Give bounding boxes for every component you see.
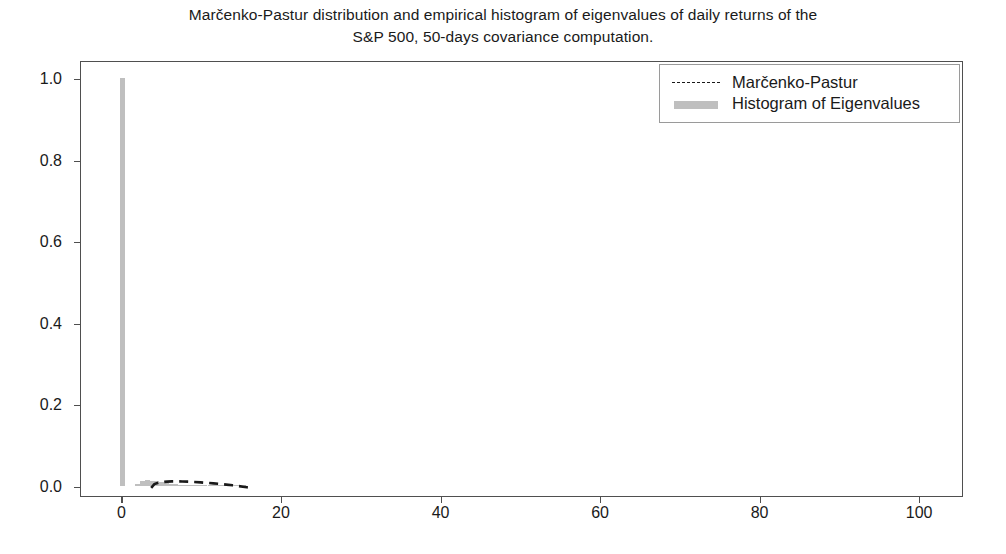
x-tick-label: 60 bbox=[570, 504, 630, 522]
x-tick-label: 20 bbox=[251, 504, 311, 522]
x-tick-mark bbox=[281, 497, 282, 503]
x-tick-mark bbox=[441, 497, 442, 503]
y-tick-label: 0.0 bbox=[10, 478, 62, 496]
filled-patch-icon bbox=[670, 97, 722, 111]
y-tick-label: 0.6 bbox=[10, 233, 62, 251]
y-tick-label: 0.2 bbox=[10, 396, 62, 414]
dashed-line-icon bbox=[670, 76, 722, 90]
legend-item-marcenko-pastur: Marčenko-Pastur bbox=[670, 72, 949, 93]
chart-title-line-1: Marčenko-Pastur distribution and empiric… bbox=[0, 4, 1006, 26]
marcenko-pastur-curve bbox=[81, 62, 962, 496]
chart-legend: Marčenko-Pastur Histogram of Eigenvalues bbox=[659, 64, 960, 123]
x-tick-label: 100 bbox=[889, 504, 949, 522]
x-tick-label: 80 bbox=[730, 504, 790, 522]
legend-label-histogram: Histogram of Eigenvalues bbox=[732, 94, 920, 113]
x-tick-label: 40 bbox=[411, 504, 471, 522]
plot-area bbox=[81, 62, 962, 496]
plot-axes bbox=[80, 61, 963, 497]
chart-title-line-2: S&P 500, 50-days covariance computation. bbox=[0, 26, 1006, 48]
x-tick-mark bbox=[121, 497, 122, 503]
x-tick-label: 0 bbox=[91, 504, 151, 522]
x-tick-mark bbox=[919, 497, 920, 503]
marcenko-pastur-path bbox=[151, 481, 250, 487]
x-tick-mark bbox=[760, 497, 761, 503]
legend-item-histogram: Histogram of Eigenvalues bbox=[670, 93, 949, 114]
y-tick-label: 1.0 bbox=[10, 70, 62, 88]
figure-canvas: Marčenko-Pastur distribution and empiric… bbox=[0, 0, 1006, 554]
chart-title: Marčenko-Pastur distribution and empiric… bbox=[0, 4, 1006, 48]
legend-label-marcenko-pastur: Marčenko-Pastur bbox=[732, 73, 858, 92]
y-tick-label: 0.8 bbox=[10, 152, 62, 170]
y-tick-label: 0.4 bbox=[10, 315, 62, 333]
x-tick-mark bbox=[600, 497, 601, 503]
